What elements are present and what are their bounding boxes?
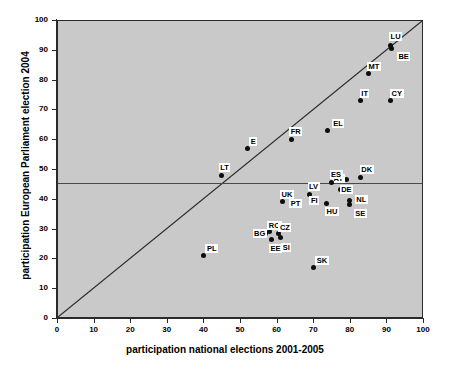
- x-tick: [423, 319, 424, 323]
- y-tick: [52, 288, 56, 289]
- data-point-label: CY: [390, 89, 403, 98]
- data-point: [329, 180, 334, 185]
- y-tick: [52, 109, 56, 110]
- x-tick-label: 20: [118, 325, 142, 334]
- data-point-label: EE: [269, 244, 282, 253]
- data-point-label: NL: [355, 195, 368, 204]
- x-axis-title: participation national elections 2001-20…: [0, 344, 450, 355]
- x-tick-label: 80: [338, 325, 362, 334]
- data-point-label: LT: [219, 163, 231, 172]
- x-tick-label: 0: [45, 325, 69, 334]
- y-tick: [52, 318, 56, 319]
- x-tick-label: 90: [374, 325, 398, 334]
- x-tick-label: 100: [411, 325, 435, 334]
- x-tick: [167, 319, 168, 323]
- y-tick: [52, 20, 56, 21]
- y-tick-label: 30: [30, 224, 48, 233]
- y-axis-title: participation European Parliament electi…: [20, 16, 31, 316]
- x-tick: [57, 319, 58, 323]
- x-tick-label: 40: [191, 325, 215, 334]
- y-tick-label: 50: [30, 164, 48, 173]
- data-point-label: PT: [289, 199, 302, 208]
- x-tick: [277, 319, 278, 323]
- y-tick-label: 10: [30, 283, 48, 292]
- y-tick-label: 90: [30, 45, 48, 54]
- data-point-label: DE: [340, 185, 353, 194]
- data-point-label: SK: [315, 256, 328, 265]
- y-tick-label: 20: [30, 253, 48, 262]
- x-tick: [386, 319, 387, 323]
- x-tick: [240, 319, 241, 323]
- data-point-label: DK: [360, 165, 374, 174]
- data-point-label: LU: [389, 32, 402, 41]
- scatter-plot-figure: participation European Parliament electi…: [0, 0, 450, 370]
- x-tick-label: 60: [265, 325, 289, 334]
- data-point: [388, 98, 393, 103]
- eu-average-line: [58, 183, 422, 184]
- data-point-label: PL: [205, 244, 218, 253]
- y-tick: [52, 229, 56, 230]
- y-tick-label: 100: [30, 15, 48, 24]
- data-point-label: CZ: [278, 223, 291, 232]
- y-tick: [52, 50, 56, 51]
- data-point-label: MT: [367, 62, 381, 71]
- x-tick: [130, 319, 131, 323]
- x-tick-label: 30: [155, 325, 179, 334]
- data-point-label: FR: [289, 127, 302, 136]
- data-point: [245, 146, 250, 151]
- data-point-label: SI: [281, 243, 291, 252]
- data-point-label: HU: [325, 207, 339, 216]
- data-point: [278, 235, 283, 240]
- y-tick: [52, 169, 56, 170]
- x-tick-label: 10: [82, 325, 106, 334]
- x-tick-label: 70: [301, 325, 325, 334]
- data-point: [324, 201, 329, 206]
- data-point-label: IT: [360, 89, 370, 98]
- data-point: [269, 237, 274, 242]
- x-tick-label: 50: [228, 325, 252, 334]
- y-tick-label: 70: [30, 104, 48, 113]
- y-tick: [52, 258, 56, 259]
- data-point-label: UK: [280, 190, 294, 199]
- x-tick: [350, 319, 351, 323]
- y-tick-label: 60: [30, 134, 48, 143]
- data-point-label: ES: [330, 170, 343, 179]
- data-point: [366, 71, 371, 76]
- data-point: [289, 137, 294, 142]
- data-point-label: BG: [253, 229, 267, 238]
- y-tick: [52, 199, 56, 200]
- data-point-label: FI: [309, 196, 319, 205]
- data-point: [311, 265, 316, 270]
- data-point: [219, 173, 224, 178]
- y-tick-label: 80: [30, 75, 48, 84]
- x-tick: [203, 319, 204, 323]
- y-tick: [52, 139, 56, 140]
- data-point: [280, 199, 285, 204]
- data-point-label: BE: [397, 52, 410, 61]
- y-tick: [52, 80, 56, 81]
- x-tick: [94, 319, 95, 323]
- y-tick-label: 40: [30, 194, 48, 203]
- x-tick: [313, 319, 314, 323]
- data-point-label: EL: [332, 119, 345, 128]
- data-point-label: SE: [354, 209, 367, 218]
- data-point: [201, 253, 206, 258]
- y-tick-label: 0: [30, 313, 48, 322]
- data-point-label: LV: [308, 182, 320, 191]
- data-point-label: E: [249, 137, 257, 146]
